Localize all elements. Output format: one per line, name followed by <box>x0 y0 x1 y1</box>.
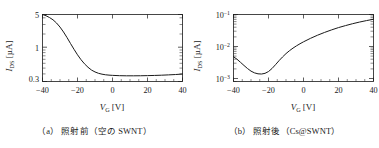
panel-a: IDS [µA] 5 1 0.3 <box>0 0 189 148</box>
y-tick-label-b-1e-2: 10−2 <box>216 42 230 52</box>
y-axis-title-a-unit: [µA] <box>4 41 14 61</box>
x-tick-label-a-m40: −40 <box>36 86 49 95</box>
y-axis-title-b-unit: [µA] <box>192 41 202 61</box>
plot-a: IDS [µA] 5 1 0.3 <box>0 0 189 126</box>
panel-b: IDS [µA] 10−1 10−2 10−3 <box>190 0 379 148</box>
x-tick-label-b-20: 20 <box>334 86 342 95</box>
data-curve-a <box>43 15 183 76</box>
y-ticks-a <box>43 15 183 82</box>
data-curve-b <box>234 19 374 74</box>
x-tick-label-a-40: 40 <box>178 86 186 95</box>
x-tick-label-a-0: 0 <box>110 86 114 95</box>
x-ticks-top-b <box>234 15 374 19</box>
x-ticks-top-a <box>43 15 183 19</box>
x-tick-label-a-20: 20 <box>143 86 151 95</box>
y-axis-title-b: IDS [µA] <box>192 41 203 73</box>
caption-a-text: 照射前（空の SWNT） <box>61 126 151 136</box>
plot-b: IDS [µA] 10−1 10−2 10−3 <box>190 0 379 126</box>
y-axis-title-a: IDS [µA] <box>4 41 15 73</box>
y-tick-label-a-03: 0.3 <box>29 75 39 84</box>
caption-a: （a）照射前（空の SWNT） <box>0 126 189 137</box>
caption-b-tag: （b） <box>229 126 252 136</box>
x-axis-title-a-unit: [V] <box>110 102 125 112</box>
svg-text:IDS [µA]: IDS [µA] <box>4 41 15 73</box>
x-ticks-b <box>234 78 374 82</box>
caption-a-tag: （a） <box>37 126 59 136</box>
y-tick-label-b-1e-1: 10−1 <box>216 10 230 20</box>
plot-frame-b <box>234 15 374 82</box>
x-axis-title-b-unit: [V] <box>301 102 316 112</box>
y-tick-label-a-5: 5 <box>35 11 39 20</box>
x-tick-label-b-m40: −40 <box>227 86 240 95</box>
plot-frame-a <box>43 15 183 82</box>
x-tick-label-b-40: 40 <box>369 86 377 95</box>
svg-text:IDS [µA]: IDS [µA] <box>192 41 203 73</box>
y-tick-label-b-1e-3: 10−3 <box>216 74 230 84</box>
x-tick-label-b-m20: −20 <box>262 86 275 95</box>
caption-b-text: 照射後（Cs@SWNT） <box>253 126 340 136</box>
y-tick-label-a-1: 1 <box>35 44 39 53</box>
x-axis-title-a: VG [V] <box>100 102 125 113</box>
x-axis-title-b: VG [V] <box>291 102 316 113</box>
figure-container: IDS [µA] 5 1 0.3 <box>0 0 379 148</box>
x-ticks-a <box>43 78 183 82</box>
caption-b: （b）照射後（Cs@SWNT） <box>190 126 379 137</box>
x-tick-label-b-0: 0 <box>301 86 305 95</box>
x-tick-label-a-m20: −20 <box>71 86 84 95</box>
y-ticks-b <box>234 15 374 82</box>
